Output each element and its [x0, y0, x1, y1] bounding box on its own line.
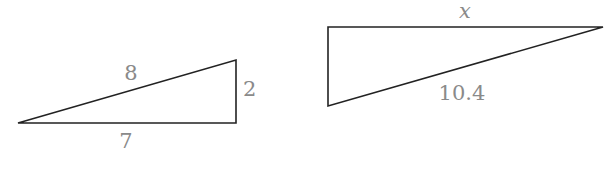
left-triangle: 8 2 7 [18, 60, 256, 153]
right-triangle: x 10.4 [328, 0, 603, 106]
right-hypotenuse-label: 10.4 [439, 81, 486, 105]
similar-triangles-diagram: 8 2 7 x 10.4 [0, 0, 609, 176]
right-top-label: x [459, 0, 471, 23]
left-vertical-label: 2 [243, 77, 256, 101]
left-base-label: 7 [119, 129, 132, 153]
left-hypotenuse-label: 8 [124, 61, 137, 85]
